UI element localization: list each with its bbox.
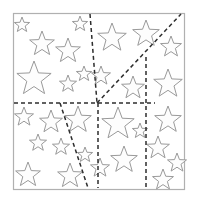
worksheet-canvas (0, 0, 197, 203)
star-partition-figure (0, 0, 197, 203)
